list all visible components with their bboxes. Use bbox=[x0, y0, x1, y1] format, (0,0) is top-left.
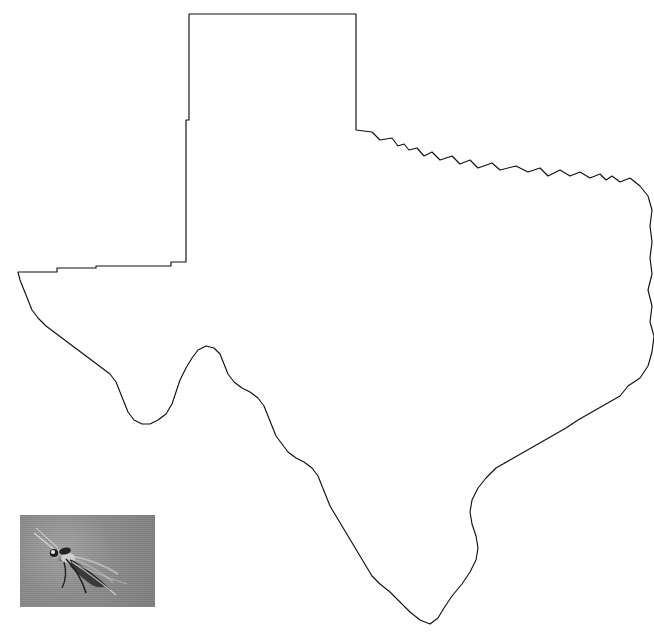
mosquito-photo-inset bbox=[20, 515, 155, 607]
mosquito-illustration bbox=[20, 515, 155, 607]
texas-county-map bbox=[0, 0, 654, 634]
